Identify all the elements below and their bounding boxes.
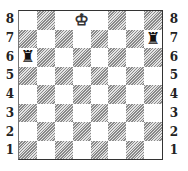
square-e2[interactable] xyxy=(91,122,109,141)
square-b6[interactable] xyxy=(37,48,55,67)
square-c1[interactable] xyxy=(55,141,73,160)
square-d5[interactable] xyxy=(73,67,91,86)
rank-label-5: 5 xyxy=(3,66,17,85)
square-b2[interactable] xyxy=(37,122,55,141)
square-h1[interactable] xyxy=(144,141,162,160)
square-h7[interactable]: ♜ xyxy=(144,30,162,49)
square-c8[interactable] xyxy=(55,11,73,30)
square-d8[interactable]: ♔ xyxy=(73,11,91,30)
square-b1[interactable] xyxy=(37,141,55,160)
square-f4[interactable] xyxy=(108,85,126,104)
square-c2[interactable] xyxy=(55,122,73,141)
square-d3[interactable] xyxy=(73,104,91,123)
square-b3[interactable] xyxy=(37,104,55,123)
square-e4[interactable] xyxy=(91,85,109,104)
square-e7[interactable] xyxy=(91,30,109,49)
square-c3[interactable] xyxy=(55,104,73,123)
rank-label-1: 1 xyxy=(3,141,17,160)
square-a6[interactable]: ♜ xyxy=(19,48,37,67)
square-e5[interactable] xyxy=(91,67,109,86)
square-f6[interactable] xyxy=(108,48,126,67)
square-h5[interactable] xyxy=(144,67,162,86)
rank-label-6: 6 xyxy=(167,48,181,67)
square-g4[interactable] xyxy=(126,85,144,104)
square-a1[interactable] xyxy=(19,141,37,160)
square-a4[interactable] xyxy=(19,85,37,104)
rank-label-3: 3 xyxy=(167,104,181,123)
square-g1[interactable] xyxy=(126,141,144,160)
square-f5[interactable] xyxy=(108,67,126,86)
square-f3[interactable] xyxy=(108,104,126,123)
square-d6[interactable] xyxy=(73,48,91,67)
square-b7[interactable] xyxy=(37,30,55,49)
rank-label-7: 7 xyxy=(3,29,17,48)
black-rook-icon[interactable]: ♜ xyxy=(21,49,35,65)
square-h8[interactable] xyxy=(144,11,162,30)
black-rook-icon[interactable]: ♜ xyxy=(146,31,160,47)
square-e6[interactable] xyxy=(91,48,109,67)
square-h4[interactable] xyxy=(144,85,162,104)
square-a7[interactable] xyxy=(19,30,37,49)
rank-label-3: 3 xyxy=(3,104,17,123)
square-c4[interactable] xyxy=(55,85,73,104)
square-f1[interactable] xyxy=(108,141,126,160)
rank-label-6: 6 xyxy=(3,48,17,67)
rank-label-7: 7 xyxy=(167,29,181,48)
square-a5[interactable] xyxy=(19,67,37,86)
square-f2[interactable] xyxy=(108,122,126,141)
square-g3[interactable] xyxy=(126,104,144,123)
square-g7[interactable] xyxy=(126,30,144,49)
square-h3[interactable] xyxy=(144,104,162,123)
rank-labels-left: 8 7 6 5 4 3 2 1 xyxy=(3,10,17,160)
square-c7[interactable] xyxy=(55,30,73,49)
rank-label-2: 2 xyxy=(167,123,181,142)
square-c5[interactable] xyxy=(55,67,73,86)
rank-label-4: 4 xyxy=(3,85,17,104)
rank-label-1: 1 xyxy=(167,141,181,160)
square-b4[interactable] xyxy=(37,85,55,104)
square-f8[interactable] xyxy=(108,11,126,30)
square-g2[interactable] xyxy=(126,122,144,141)
square-d7[interactable] xyxy=(73,30,91,49)
square-e3[interactable] xyxy=(91,104,109,123)
square-d2[interactable] xyxy=(73,122,91,141)
square-e8[interactable] xyxy=(91,11,109,30)
rank-labels-right: 8 7 6 5 4 3 2 1 xyxy=(167,10,181,160)
rank-label-4: 4 xyxy=(167,85,181,104)
square-h2[interactable] xyxy=(144,122,162,141)
rank-label-5: 5 xyxy=(167,66,181,85)
square-f7[interactable] xyxy=(108,30,126,49)
square-d4[interactable] xyxy=(73,85,91,104)
chess-board: ♔♜♜ xyxy=(18,10,163,160)
square-h6[interactable] xyxy=(144,48,162,67)
square-b5[interactable] xyxy=(37,67,55,86)
square-g8[interactable] xyxy=(126,11,144,30)
square-a2[interactable] xyxy=(19,122,37,141)
square-c6[interactable] xyxy=(55,48,73,67)
square-g6[interactable] xyxy=(126,48,144,67)
rank-label-8: 8 xyxy=(3,10,17,29)
square-a8[interactable] xyxy=(19,11,37,30)
rank-label-8: 8 xyxy=(167,10,181,29)
square-a3[interactable] xyxy=(19,104,37,123)
square-e1[interactable] xyxy=(91,141,109,160)
rank-label-2: 2 xyxy=(3,123,17,142)
square-d1[interactable] xyxy=(73,141,91,160)
square-b8[interactable] xyxy=(37,11,55,30)
white-king-icon[interactable]: ♔ xyxy=(74,12,88,28)
square-g5[interactable] xyxy=(126,67,144,86)
